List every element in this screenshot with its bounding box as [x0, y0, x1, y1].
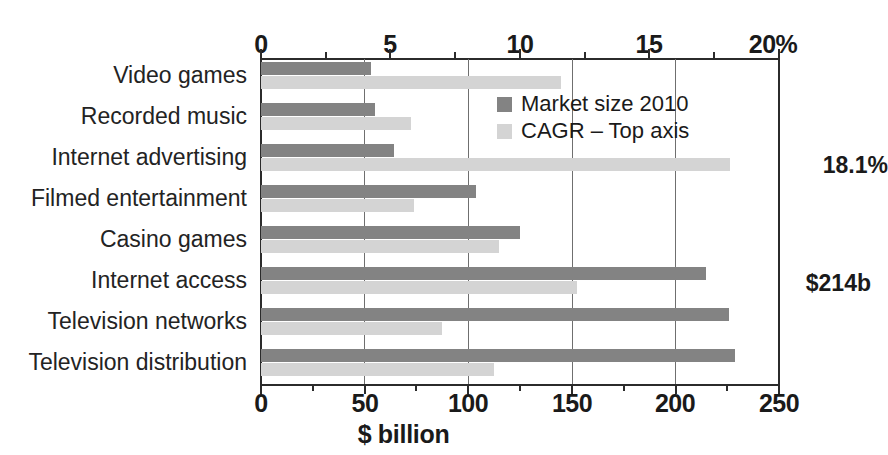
- category-axis-labels: Video games Recorded music Internet adve…: [0, 59, 255, 384]
- bottom-axis-tick-label: 50: [352, 388, 379, 418]
- legend-swatch-icon: [497, 124, 512, 139]
- legend-swatch-icon: [497, 97, 512, 112]
- gridline: [468, 59, 469, 384]
- category-label: Filmed entertainment: [31, 185, 247, 211]
- bar-cagr: [261, 240, 499, 253]
- bottom-axis-tick-label: 150: [552, 388, 592, 418]
- legend-item-cagr: CAGR – Top axis: [497, 119, 712, 143]
- top-axis-tick-major: [648, 49, 650, 59]
- bar-market-size: [261, 308, 729, 321]
- category-label: Recorded music: [81, 103, 247, 129]
- bar-market-size: [261, 103, 375, 116]
- bar-cagr: [261, 199, 414, 212]
- bar-cagr: [261, 363, 494, 376]
- bar-cagr: [261, 117, 411, 130]
- category-label: Video games: [113, 62, 247, 88]
- category-label: Internet access: [91, 267, 247, 293]
- annotation-cagr-internet-advertising: 18.1%: [823, 151, 888, 179]
- bar-cagr: [261, 158, 730, 171]
- top-axis-tick-minor: [584, 52, 586, 59]
- category-label: Television distribution: [28, 349, 247, 375]
- legend: Market size 2010 CAGR – Top axis: [497, 92, 712, 146]
- bar-market-size: [261, 185, 476, 198]
- bottom-axis-tick-label: 0: [254, 388, 267, 418]
- bottom-axis-tick-labels: 0 50 100 150 200 250: [0, 388, 807, 418]
- bar-market-size: [261, 267, 706, 280]
- legend-label: CAGR – Top axis: [521, 119, 689, 143]
- top-axis-tick-minor: [713, 52, 715, 59]
- top-axis-tick-label: 20%: [749, 30, 798, 58]
- bottom-axis-tick-label: 200: [655, 388, 695, 418]
- top-axis-tick-labels: 0 5 10 15 20%: [0, 30, 807, 58]
- top-axis-tick-major: [519, 49, 521, 59]
- bar-cagr: [261, 281, 577, 294]
- legend-item-market-size: Market size 2010: [497, 92, 712, 116]
- legend-label: Market size 2010: [521, 92, 689, 116]
- category-label: Television networks: [48, 308, 247, 334]
- category-label: Casino games: [100, 226, 247, 252]
- category-label: Internet advertising: [51, 144, 247, 170]
- bar-market-size: [261, 144, 394, 157]
- bar-cagr: [261, 76, 561, 89]
- top-axis-tick-minor: [454, 52, 456, 59]
- bar-market-size: [261, 226, 520, 239]
- top-axis-tick-major: [389, 49, 391, 59]
- x-axis-title: $ billion: [0, 420, 807, 449]
- bottom-axis-tick-label: 100: [448, 388, 488, 418]
- bar-cagr: [261, 322, 442, 335]
- bar-market-size: [261, 349, 735, 362]
- annotation-market-size-internet-access: $214b: [806, 269, 871, 297]
- top-axis-tick-minor: [325, 52, 327, 59]
- bar-market-size: [261, 62, 371, 75]
- bottom-axis-tick-label: 250: [759, 388, 799, 418]
